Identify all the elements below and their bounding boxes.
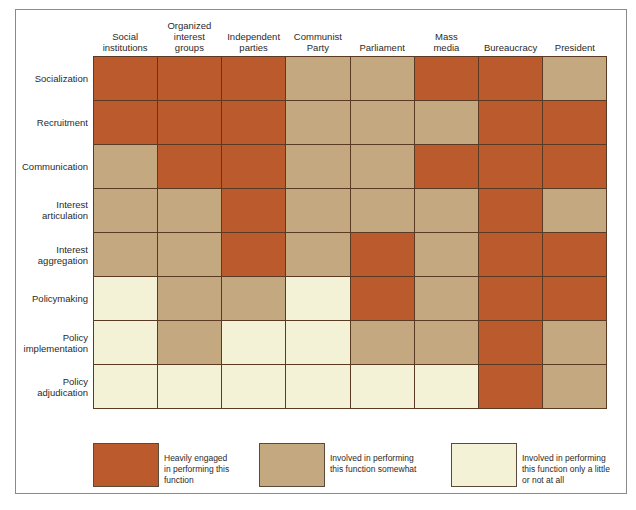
legend-item-heavily-engaged: Heavily engaged in performing this funct…: [93, 443, 229, 487]
column-header-communist-party: Communist Party: [286, 14, 350, 56]
column-header-mass-media: Mass media: [414, 14, 478, 56]
matrix-cell-somewhat-involved: [415, 233, 478, 276]
matrix-cell-heavily-engaged: [222, 233, 285, 276]
matrix-cell-little-or-none: [94, 321, 157, 364]
matrix-cell-little-or-none: [222, 365, 285, 408]
legend-swatch-heavy: [93, 443, 159, 487]
matrix-cell-somewhat-involved: [415, 189, 478, 232]
matrix-cell-somewhat-involved: [351, 189, 414, 232]
matrix-cell-heavily-engaged: [94, 101, 157, 144]
matrix-cell-somewhat-involved: [286, 57, 349, 100]
row-header-socialization: Socialization: [18, 56, 88, 100]
matrix-cell-heavily-engaged: [543, 277, 606, 320]
row-header-interest-articulation: Interest articulation: [18, 188, 88, 232]
matrix-cell-heavily-engaged: [222, 57, 285, 100]
matrix-cell-somewhat-involved: [158, 233, 221, 276]
matrix-cell-somewhat-involved: [158, 189, 221, 232]
matrix-cell-somewhat-involved: [415, 101, 478, 144]
matrix-cell-heavily-engaged: [351, 233, 414, 276]
legend-label-little: Involved in performing this function onl…: [522, 443, 610, 486]
row-headers: Socialization Recruitment Communication …: [18, 56, 88, 409]
matrix-cell-somewhat-involved: [222, 277, 285, 320]
matrix-cell-heavily-engaged: [222, 189, 285, 232]
legend-swatch-somewhat: [259, 443, 325, 487]
legend-item-somewhat-involved: Involved in performing this function som…: [259, 443, 416, 487]
column-header-organized-interest-groups: Organized interest groups: [157, 14, 221, 56]
function-matrix-grid: [93, 56, 607, 409]
matrix-cell-somewhat-involved: [286, 101, 349, 144]
legend-swatch-little: [451, 443, 517, 487]
matrix-cell-somewhat-involved: [415, 321, 478, 364]
matrix-cell-heavily-engaged: [415, 145, 478, 188]
matrix-cell-somewhat-involved: [94, 145, 157, 188]
matrix-cell-somewhat-involved: [543, 189, 606, 232]
matrix-cell-somewhat-involved: [543, 57, 606, 100]
matrix-cell-somewhat-involved: [94, 189, 157, 232]
matrix-cell-heavily-engaged: [479, 57, 542, 100]
matrix-cell-heavily-engaged: [94, 57, 157, 100]
matrix-cell-heavily-engaged: [479, 277, 542, 320]
row-header-communication: Communication: [18, 144, 88, 188]
matrix-cell-heavily-engaged: [222, 101, 285, 144]
legend-label-somewhat: Involved in performing this function som…: [330, 443, 416, 475]
matrix-cell-heavily-engaged: [479, 233, 542, 276]
matrix-cell-heavily-engaged: [543, 233, 606, 276]
matrix-cell-little-or-none: [286, 365, 349, 408]
matrix-cell-somewhat-involved: [351, 57, 414, 100]
matrix-cell-somewhat-involved: [94, 233, 157, 276]
legend-item-little-or-none: Involved in performing this function onl…: [451, 443, 610, 487]
matrix-cell-somewhat-involved: [158, 321, 221, 364]
matrix-cell-somewhat-involved: [286, 233, 349, 276]
column-headers: Social institutions Organized interest g…: [93, 14, 607, 56]
matrix-cell-little-or-none: [415, 365, 478, 408]
row-header-recruitment: Recruitment: [18, 100, 88, 144]
matrix-cell-heavily-engaged: [158, 101, 221, 144]
column-header-social-institutions: Social institutions: [93, 14, 157, 56]
matrix-cell-heavily-engaged: [543, 101, 606, 144]
matrix-cell-somewhat-involved: [286, 189, 349, 232]
matrix-cell-heavily-engaged: [479, 145, 542, 188]
matrix-cell-somewhat-involved: [351, 145, 414, 188]
matrix-cell-little-or-none: [222, 321, 285, 364]
matrix-cell-somewhat-involved: [543, 321, 606, 364]
matrix-cell-heavily-engaged: [543, 145, 606, 188]
matrix-cell-heavily-engaged: [158, 145, 221, 188]
column-header-independent-parties: Independent parties: [222, 14, 286, 56]
column-header-bureaucracy: Bureaucracy: [479, 14, 543, 56]
row-header-policy-implementation: Policy implementation: [18, 321, 88, 365]
matrix-cell-somewhat-involved: [286, 145, 349, 188]
matrix-cell-heavily-engaged: [479, 321, 542, 364]
row-header-interest-aggregation: Interest aggregation: [18, 233, 88, 277]
matrix-cell-little-or-none: [158, 365, 221, 408]
matrix-cell-heavily-engaged: [479, 101, 542, 144]
column-header-president: President: [543, 14, 607, 56]
matrix-cell-heavily-engaged: [351, 277, 414, 320]
matrix-cell-little-or-none: [94, 365, 157, 408]
row-header-policymaking: Policymaking: [18, 277, 88, 321]
matrix-cell-heavily-engaged: [222, 145, 285, 188]
matrix-cell-heavily-engaged: [415, 57, 478, 100]
matrix-cell-heavily-engaged: [479, 189, 542, 232]
row-header-policy-adjudication: Policy adjudication: [18, 365, 88, 409]
column-header-parliament: Parliament: [350, 14, 414, 56]
matrix-cell-heavily-engaged: [479, 365, 542, 408]
legend-label-heavy: Heavily engaged in performing this funct…: [164, 443, 229, 486]
matrix-cell-somewhat-involved: [351, 321, 414, 364]
matrix-cell-little-or-none: [351, 365, 414, 408]
matrix-cell-somewhat-involved: [351, 101, 414, 144]
matrix-cell-somewhat-involved: [415, 277, 478, 320]
matrix-cell-little-or-none: [94, 277, 157, 320]
matrix-cell-somewhat-involved: [158, 277, 221, 320]
matrix-cell-little-or-none: [286, 321, 349, 364]
matrix-cell-somewhat-involved: [543, 365, 606, 408]
matrix-cell-little-or-none: [286, 277, 349, 320]
matrix-cell-heavily-engaged: [158, 57, 221, 100]
